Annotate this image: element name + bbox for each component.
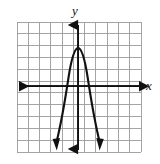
graph-figure: y x (0, 0, 160, 164)
y-axis-label: y (72, 4, 78, 17)
x-axis-label: x (146, 79, 152, 92)
coordinate-plane-svg (0, 0, 160, 164)
figure-background (0, 0, 160, 164)
